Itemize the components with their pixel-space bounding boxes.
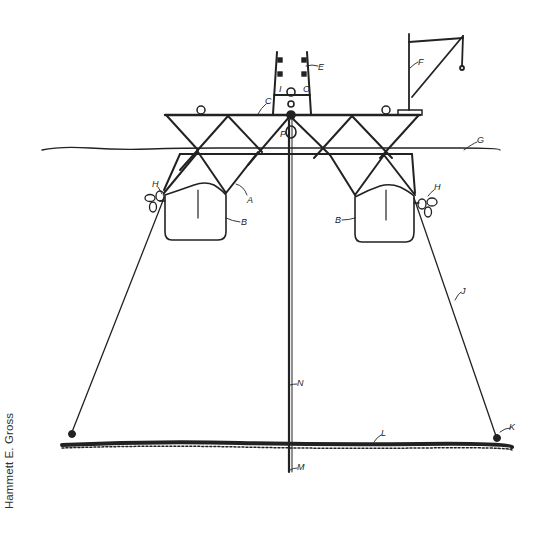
label-f: F — [418, 58, 424, 67]
label-j: J — [461, 287, 466, 296]
platform-diagram: A B B C E F G H H I J K L M N O P Hammet… — [0, 0, 555, 542]
label-n: N — [297, 379, 304, 388]
label-g: G — [477, 136, 484, 145]
mooring-line-left — [72, 198, 164, 432]
diagram-drawing — [0, 0, 555, 542]
label-o: O — [303, 85, 310, 94]
label-l: L — [381, 429, 386, 438]
label-h-left: H — [152, 180, 159, 189]
label-a: A — [247, 196, 253, 205]
water-line — [42, 147, 500, 150]
pontoon-left — [165, 183, 226, 240]
label-b-left: B — [241, 218, 247, 227]
label-h-right: H — [434, 183, 441, 192]
image-credit: Hammett E. Gross — [3, 406, 15, 516]
anchor-left — [69, 431, 76, 438]
label-k: K — [509, 423, 515, 432]
label-c: C — [265, 97, 272, 106]
tower-fittings — [278, 58, 306, 76]
label-b-right: B — [335, 216, 341, 225]
label-i: I — [279, 85, 282, 94]
label-m: M — [297, 463, 305, 472]
label-p: P — [280, 130, 286, 139]
anchor-right — [494, 435, 501, 442]
crane — [398, 34, 464, 115]
mooring-line-right — [414, 198, 496, 436]
pontoon-right — [355, 185, 414, 242]
label-e: E — [318, 63, 324, 72]
